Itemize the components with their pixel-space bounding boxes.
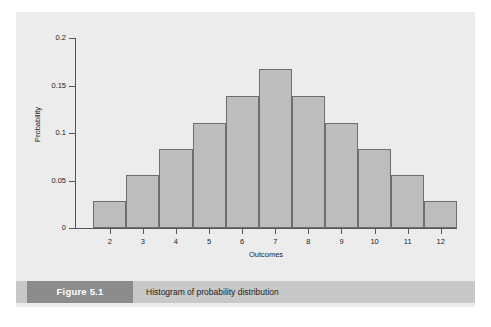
x-tick-label: 3 [128,237,158,246]
figure-number-label: Figure 5.1 [27,286,133,297]
x-tick-mark [408,229,409,234]
figure-caption-label: Histogram of probability distribution [146,287,279,297]
histogram-bar [292,96,325,228]
histogram-bar [424,201,457,228]
histogram-bar [159,149,192,228]
figure-number-badge: Figure 5.1 [27,281,133,303]
y-tick-mark [69,181,76,182]
x-tick-label: 5 [194,237,224,246]
histogram-bar [391,175,424,228]
x-tick-mark [242,229,243,234]
x-tick-label: 4 [161,237,191,246]
histogram-bar [193,123,226,228]
x-axis-line [75,228,457,229]
x-tick-label: 12 [426,237,456,246]
x-tick-label: 11 [393,237,423,246]
y-tick-label-text: 0.2 [56,34,66,42]
histogram-bar [226,96,259,228]
figure-root: 00.050.10.150.2 23456789101112 Probabili… [0,0,491,327]
x-tick-label: 8 [293,237,323,246]
y-tick-label: 0.2 [30,34,66,42]
x-tick-mark [176,229,177,234]
x-tick-mark [375,229,376,234]
figure-panel: 00.050.10.150.2 23456789101112 Probabili… [16,12,475,307]
x-tick-label: 7 [260,237,290,246]
histogram-bar [126,175,159,228]
x-tick-mark [143,229,144,234]
x-tick-label: 9 [326,237,356,246]
y-tick-mark [69,133,76,134]
y-tick-mark [69,86,76,87]
y-tick-label-text: 0.1 [56,129,66,137]
x-tick-mark [209,229,210,234]
x-tick-mark [341,229,342,234]
histogram-bar [325,123,358,228]
y-tick-label-text: 0.05 [51,177,66,185]
figure-caption-bar: Figure 5.1 Histogram of probability dist… [16,281,475,303]
y-tick-mark [69,38,76,39]
x-axis-title: Outcomes [75,250,457,259]
histogram-bar [259,69,292,228]
y-axis-title: Probability [33,95,42,155]
y-tick-label: 0 [30,224,66,232]
x-tick-mark [275,229,276,234]
x-tick-mark [110,229,111,234]
y-tick-mark [69,228,76,229]
y-tick-label-text: 0.15 [51,82,66,90]
histogram-bar [93,201,126,228]
x-tick-label: 6 [227,237,257,246]
x-tick-mark [308,229,309,234]
x-tick-label: 10 [360,237,390,246]
y-tick-label: 0.15 [30,82,66,90]
y-tick-label-text: 0 [62,224,66,232]
chart-plot-area: 00.050.10.150.2 23456789101112 Probabili… [16,12,475,274]
x-tick-mark [441,229,442,234]
x-tick-label: 2 [95,237,125,246]
y-tick-label: 0.05 [30,177,66,185]
histogram-bar [358,149,391,228]
